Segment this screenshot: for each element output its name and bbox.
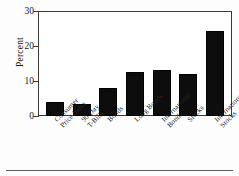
bottom-divider-rule [6, 170, 233, 171]
y-tick-label-30: 30 [18, 7, 34, 17]
y-tick-label-0: 0 [18, 112, 34, 122]
x-axis-category-labels: Consumer Price Index 90 Day T-Bills Bond… [39, 118, 231, 168]
y-tick-mark-0 [33, 116, 39, 117]
bar-slot [42, 12, 69, 116]
bar-chart-figure: Percent 30 20 10 0 Consume [0, 0, 239, 176]
y-tick-label-20: 20 [18, 42, 34, 52]
y-tick-label-10: 10 [18, 77, 34, 87]
y-axis-tick-labels: 30 20 10 0 [14, 0, 34, 176]
